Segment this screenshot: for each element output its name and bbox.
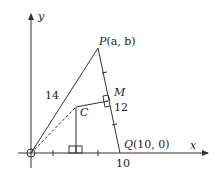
point-P-coords: (a, b) (106, 35, 135, 48)
point-Q-coords: (10, 0) (133, 138, 170, 151)
point-M-label: M (113, 86, 126, 99)
diagram: y x P(a, b) Q(10, 0) M C 14 12 10 (0, 0, 221, 178)
length-PQ-label: 12 (114, 101, 128, 114)
pq-tick (112, 124, 117, 125)
point-P-label: P(a, b) (98, 35, 136, 48)
x-axis-label: x (190, 139, 197, 152)
point-Q-name: Q (124, 138, 133, 151)
segment-OP (31, 48, 98, 153)
point-C-label: C (80, 106, 89, 119)
point-Q-label: Q(10, 0) (124, 138, 170, 151)
x-tick-10-label: 10 (116, 157, 130, 170)
y-axis-label: y (37, 10, 45, 23)
length-OP-label: 14 (45, 89, 59, 102)
